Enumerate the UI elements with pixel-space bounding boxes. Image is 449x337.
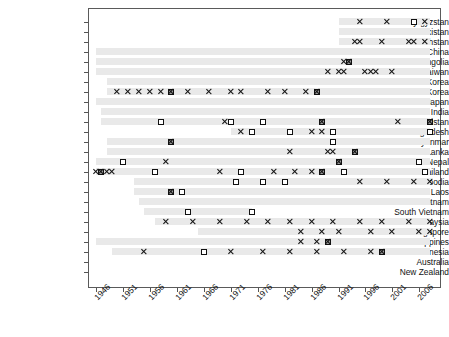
x-marker (287, 149, 293, 155)
series-span-band (96, 48, 430, 55)
x-marker (319, 129, 325, 135)
x-marker (271, 169, 277, 175)
x-marker (357, 219, 363, 225)
x-marker (411, 39, 417, 45)
x-marker (357, 19, 363, 25)
y-axis-tick (84, 252, 88, 253)
y-axis-tick (84, 192, 88, 193)
y-axis-tick (84, 242, 88, 243)
filled-square-marker (427, 119, 433, 125)
x-marker (379, 219, 385, 225)
filled-square-marker (319, 119, 325, 125)
x-marker (163, 219, 169, 225)
series-span-band (144, 208, 252, 215)
y-axis-label: South Vietnam (367, 207, 449, 216)
open-square-marker (249, 209, 255, 215)
x-marker (217, 169, 223, 175)
series-span-band (107, 148, 431, 155)
x-marker (292, 169, 298, 175)
x-marker (185, 89, 191, 95)
x-marker (368, 249, 374, 255)
series-span-band (107, 138, 431, 145)
x-marker (228, 89, 234, 95)
x-marker (228, 249, 234, 255)
open-square-marker (411, 19, 417, 25)
series-span-band (96, 68, 430, 75)
open-square-marker (185, 209, 191, 215)
x-marker (406, 219, 412, 225)
open-square-marker (152, 169, 158, 175)
y-axis-label: Australia (367, 257, 449, 266)
x-marker (265, 219, 271, 225)
x-marker (357, 179, 363, 185)
x-marker (287, 219, 293, 225)
filled-square-marker (346, 59, 352, 65)
x-marker (422, 39, 428, 45)
x-marker (411, 179, 417, 185)
x-marker (389, 229, 395, 235)
y-axis-tick (84, 122, 88, 123)
x-marker (298, 239, 304, 245)
y-axis-tick (84, 82, 88, 83)
series-span-band (134, 188, 431, 195)
y-axis-tick (84, 72, 88, 73)
x-marker (303, 89, 309, 95)
x-marker (158, 89, 164, 95)
x-marker (287, 249, 293, 255)
series-span-band (139, 198, 430, 205)
filled-square-marker (379, 249, 385, 255)
x-marker (136, 89, 142, 95)
x-marker (309, 129, 315, 135)
x-marker (330, 219, 336, 225)
series-span-band (101, 108, 430, 115)
open-square-marker (228, 119, 234, 125)
x-marker (384, 19, 390, 25)
open-square-marker (330, 129, 336, 135)
filled-square-marker (325, 239, 331, 245)
open-square-marker (287, 129, 293, 135)
open-square-marker (238, 169, 244, 175)
open-square-marker (282, 179, 288, 185)
x-marker (357, 39, 363, 45)
x-marker (341, 69, 347, 75)
filled-square-marker (352, 149, 358, 155)
x-marker (427, 229, 433, 235)
filled-square-marker (168, 89, 174, 95)
open-square-marker (249, 129, 255, 135)
x-marker (190, 219, 196, 225)
election-timeline-chart: KyrgyzstanUzbekistanKazakhstanChinaMongo… (0, 0, 449, 337)
x-marker (244, 219, 250, 225)
x-marker (125, 89, 131, 95)
open-square-marker (422, 169, 428, 175)
y-axis-tick (84, 202, 88, 203)
x-marker (298, 229, 304, 235)
filled-square-marker (336, 159, 342, 165)
series-span-band (96, 58, 430, 65)
x-marker (238, 89, 244, 95)
x-marker (384, 179, 390, 185)
y-axis-tick (84, 232, 88, 233)
x-marker (373, 69, 379, 75)
y-axis-tick (84, 132, 88, 133)
y-axis-tick (84, 162, 88, 163)
x-marker (260, 249, 266, 255)
x-marker (309, 169, 315, 175)
x-marker (336, 229, 342, 235)
y-axis-tick (84, 172, 88, 173)
y-axis-label: New Zealand (367, 267, 449, 276)
filled-square-marker (319, 169, 325, 175)
x-marker (330, 149, 336, 155)
filled-square-marker (168, 189, 174, 195)
y-axis-tick (84, 42, 88, 43)
series-span-band (339, 28, 431, 35)
y-axis-tick (84, 272, 88, 273)
x-marker (141, 249, 147, 255)
x-marker (427, 219, 433, 225)
y-axis-tick (84, 182, 88, 183)
open-square-marker (120, 159, 126, 165)
x-marker (163, 159, 169, 165)
x-marker (282, 89, 288, 95)
x-marker (319, 229, 325, 235)
x-marker (416, 229, 422, 235)
x-marker (341, 249, 347, 255)
